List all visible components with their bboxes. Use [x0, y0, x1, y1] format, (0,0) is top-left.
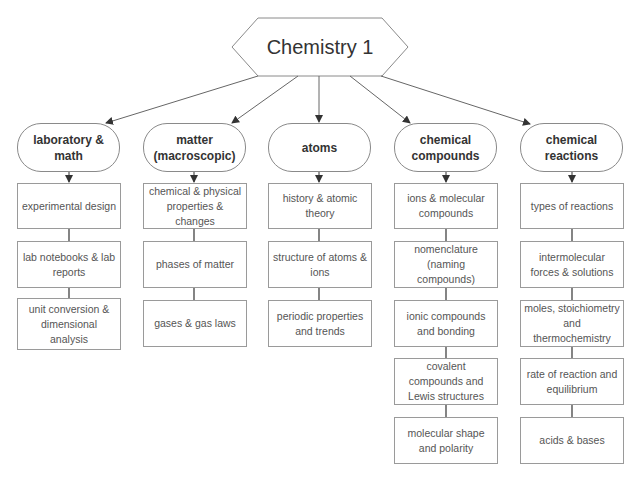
topic-label: rate of reaction and equilibrium	[524, 367, 620, 397]
root-node: Chemistry 1	[232, 18, 408, 76]
topic-label: lab notebooks & lab reports	[21, 250, 117, 280]
topic-box: intermolecular forces & solutions	[520, 241, 624, 288]
topic-box: unit conversion & dimensional analysis	[17, 298, 121, 350]
heading-label: chemical compounds	[399, 132, 492, 164]
topic-box: lab notebooks & lab reports	[17, 241, 121, 288]
topic-box: history & atomic theory	[268, 183, 372, 229]
topic-label: structure of atoms & ions	[272, 250, 368, 280]
topic-label: ionic compounds and bonding	[398, 309, 494, 339]
topic-label: phases of matter	[156, 257, 234, 272]
topic-label: moles, stoichiometry and thermochemistry	[524, 301, 620, 346]
topic-label: experimental design	[22, 199, 116, 214]
heading-atoms: atoms	[268, 123, 371, 172]
topic-box: gases & gas laws	[143, 300, 247, 347]
heading-matter: matter (macroscopic)	[143, 123, 246, 172]
topic-box: periodic properties and trends	[268, 300, 372, 347]
topic-box: experimental design	[17, 183, 121, 229]
topic-label: chemical & physical properties & changes	[147, 184, 243, 229]
topic-label: ions & molecular compounds	[398, 191, 494, 221]
topic-box: phases of matter	[143, 241, 247, 288]
topic-box: rate of reaction and equilibrium	[520, 358, 624, 405]
topic-box: covalent compounds and Lewis structures	[394, 358, 498, 405]
topic-box: chemical & physical properties & changes	[143, 183, 247, 229]
topic-label: types of reactions	[531, 199, 613, 214]
heading-label: matter (macroscopic)	[148, 132, 241, 164]
heading-chemical-reactions: chemical reactions	[520, 123, 623, 172]
root-title: Chemistry 1	[267, 36, 374, 59]
heading-label: chemical reactions	[525, 132, 618, 164]
topic-box: ionic compounds and bonding	[394, 300, 498, 347]
heading-chemical-compounds: chemical compounds	[394, 123, 497, 172]
topic-label: history & atomic theory	[272, 191, 368, 221]
topic-box: molecular shape and polarity	[394, 417, 498, 464]
topic-box: nomenclature (naming compounds)	[394, 241, 498, 288]
topic-label: acids & bases	[539, 433, 604, 448]
topic-label: intermolecular forces & solutions	[524, 250, 620, 280]
topic-box: types of reactions	[520, 183, 624, 229]
topic-label: gases & gas laws	[154, 316, 236, 331]
heading-laboratory-math: laboratory & math	[17, 123, 120, 172]
topic-label: nomenclature (naming compounds)	[398, 242, 494, 287]
topic-box: ions & molecular compounds	[394, 183, 498, 229]
topic-label: periodic properties and trends	[272, 309, 368, 339]
topic-box: structure of atoms & ions	[268, 241, 372, 288]
topic-label: covalent compounds and Lewis structures	[398, 359, 494, 404]
topic-label: unit conversion & dimensional analysis	[21, 302, 117, 347]
topic-box: moles, stoichiometry and thermochemistry	[520, 300, 624, 347]
topic-box: acids & bases	[520, 417, 624, 464]
heading-label: atoms	[302, 140, 337, 156]
heading-label: laboratory & math	[22, 132, 115, 164]
topic-label: molecular shape and polarity	[398, 426, 494, 456]
